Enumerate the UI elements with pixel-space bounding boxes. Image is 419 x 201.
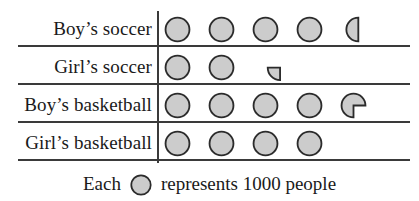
row-divider-line (18, 45, 410, 47)
symbol-half-circle (340, 16, 367, 43)
symbol-full-circle (208, 92, 235, 119)
symbol-quarter-circle (255, 54, 282, 81)
symbol-full-circle (296, 16, 323, 43)
symbol-full-circle (252, 16, 279, 43)
symbol-full-circle (296, 130, 323, 157)
row-label-girls-basketball: Girl’s basketball (0, 124, 152, 162)
row-label-girls-soccer: Girl’s soccer (0, 48, 152, 86)
symbol-full-circle (208, 16, 235, 43)
symbol-full-circle (252, 130, 279, 157)
gray-circle-symbol-icon (130, 174, 152, 196)
symbol-full-circle (296, 92, 323, 119)
pictograph-row: Boy’s basketball (0, 86, 419, 124)
symbol-full-circle (208, 54, 235, 81)
pictograph-row: Boy’s soccer (0, 10, 419, 48)
row-divider-line (18, 83, 410, 85)
vertical-axis-line (157, 11, 159, 163)
symbol-three-quarter-circle (340, 92, 367, 119)
row-divider-line (18, 159, 410, 161)
pictograph-row: Girl’s basketball (0, 124, 419, 162)
row-divider-line (18, 121, 410, 123)
symbol-full-circle (252, 92, 279, 119)
symbol-full-circle (164, 92, 191, 119)
pictograph-row: Girl’s soccer (0, 48, 419, 86)
symbol-full-circle (164, 54, 191, 81)
pictograph-chart: Boy’s soccer (0, 0, 419, 201)
symbol-full-circle (208, 130, 235, 157)
legend-prefix: Each (83, 174, 121, 193)
row-label-boys-soccer: Boy’s soccer (0, 10, 152, 48)
legend-suffix: represents 1000 people (161, 174, 336, 193)
chart-plot-area: Boy’s soccer (0, 0, 419, 162)
legend: Each represents 1000 people (0, 166, 419, 201)
symbol-full-circle (164, 130, 191, 157)
symbol-full-circle (164, 16, 191, 43)
row-label-boys-basketball: Boy’s basketball (0, 86, 152, 124)
